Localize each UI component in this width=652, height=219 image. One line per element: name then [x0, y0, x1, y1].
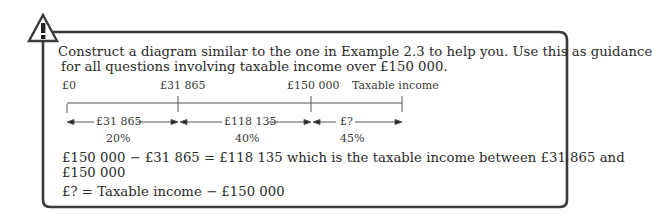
- label-taxable-income: Taxable income: [352, 79, 439, 92]
- explanation-line-2: £150 000: [62, 165, 125, 180]
- band-amount-basic: £31 865: [96, 115, 142, 128]
- warning-triangle-icon: [27, 13, 59, 43]
- diagram-axis: [67, 96, 402, 113]
- label-basic-limit: £31 865: [160, 79, 206, 92]
- band-amount-additional: £?: [340, 115, 353, 128]
- explanation-line-1: £150 000 − £31 865 = £118 135 which is t…: [62, 150, 625, 165]
- band-rate-basic: 20%: [106, 132, 130, 145]
- band-rate-higher: 40%: [235, 132, 259, 145]
- band-rate-additional: 45%: [340, 132, 364, 145]
- band-amount-higher: £118 135: [224, 115, 277, 128]
- instruction-line-1: Construct a diagram similar to the one i…: [58, 44, 652, 59]
- explanation-line-3: £? = Taxable income − £150 000: [62, 184, 285, 199]
- label-higher-limit: £150 000: [287, 79, 340, 92]
- instruction-line-2: for all questions involving taxable inco…: [61, 59, 448, 74]
- label-zero: £0: [62, 79, 76, 92]
